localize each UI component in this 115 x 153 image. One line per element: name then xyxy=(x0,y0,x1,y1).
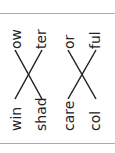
word-ful: ful xyxy=(88,31,102,49)
word-ow: ow xyxy=(9,29,23,49)
word-win: win xyxy=(9,107,23,131)
word-care: care xyxy=(62,101,76,131)
word-or: or xyxy=(62,35,76,49)
word-shad: shad xyxy=(34,97,48,131)
word-col: col xyxy=(88,111,102,131)
word-ter: ter xyxy=(34,29,48,49)
